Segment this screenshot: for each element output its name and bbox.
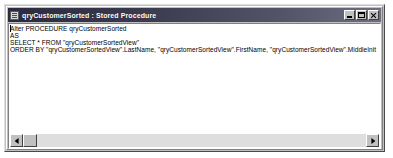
code-line: ORDER BY "qryCustomerSortedView".LastNam…	[10, 46, 380, 53]
chevron-right-icon	[371, 138, 375, 144]
text-caret	[10, 25, 11, 32]
editor-pane: Alter PROCEDURE qryCustomerSorted AS SEL…	[8, 23, 381, 149]
window-controls	[344, 10, 380, 20]
sql-code-editor[interactable]: Alter PROCEDURE qryCustomerSorted AS SEL…	[9, 24, 380, 134]
chevron-left-icon	[14, 138, 18, 144]
minimize-button[interactable]	[344, 10, 355, 20]
minimize-icon	[347, 16, 352, 18]
window-inner-frame: qryCustomerSorted : Stored Procedure	[6, 6, 383, 150]
scrollbar-track[interactable]	[23, 134, 366, 147]
close-button[interactable]	[368, 10, 379, 20]
stored-procedure-icon	[10, 11, 19, 20]
scroll-right-button[interactable]	[366, 134, 379, 147]
screen: qryCustomerSorted : Stored Procedure	[0, 0, 393, 158]
window-titlebar[interactable]: qryCustomerSorted : Stored Procedure	[8, 8, 381, 22]
scroll-left-button[interactable]	[10, 134, 23, 147]
horizontal-scrollbar[interactable]	[10, 134, 379, 147]
maximize-icon	[358, 12, 365, 18]
code-line: Alter PROCEDURE qryCustomerSorted	[10, 25, 380, 32]
scrollbar-thumb[interactable]	[23, 134, 37, 147]
maximize-button[interactable]	[356, 10, 367, 20]
stored-procedure-window: qryCustomerSorted : Stored Procedure	[4, 4, 385, 152]
code-line: SELECT * FROM "qryCustomerSortedView"	[10, 39, 380, 46]
code-line: AS	[10, 32, 380, 39]
window-title: qryCustomerSorted : Stored Procedure	[22, 11, 156, 20]
